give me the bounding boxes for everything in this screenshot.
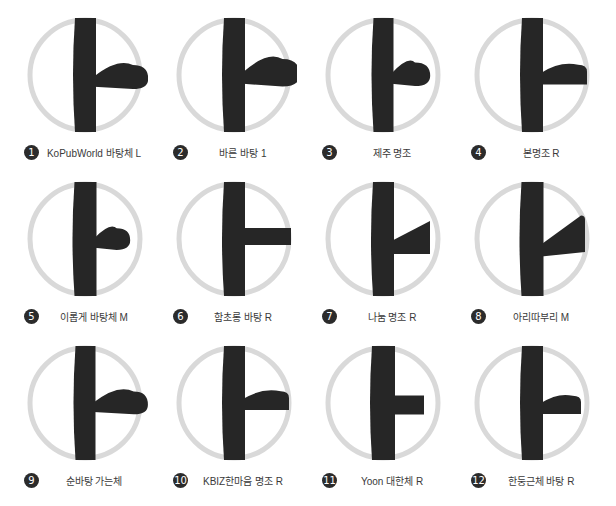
glyph-artwork — [171, 340, 297, 466]
glyph-vertical-stem — [73, 18, 96, 132]
vowel-a-glyph — [519, 182, 585, 296]
glyph-vertical-stem — [519, 182, 543, 296]
specimen-number-badge: 12 — [471, 473, 486, 488]
glyph-disc — [320, 12, 446, 138]
vowel-a-glyph — [73, 346, 147, 460]
vowel-a-glyph — [222, 18, 297, 132]
specimen-caption: 2바른 바탕 1 — [159, 145, 308, 160]
glyph-horizontal-branch — [541, 395, 581, 414]
glyph-disc — [171, 340, 297, 466]
specimen-cell: 9순바탕 가는체 — [10, 336, 159, 500]
glyph-vertical-stem — [72, 182, 96, 296]
specimen-number-badge: 9 — [24, 473, 39, 488]
glyph-disc — [469, 340, 595, 466]
specimen-number-badge: 1 — [24, 145, 39, 160]
specimen-caption: 10KBIZ한마음 명조 R — [159, 473, 308, 488]
specimen-cell: 4본명조 R — [457, 8, 606, 172]
specimen-caption: 3제주 명조 — [308, 145, 457, 160]
glyph-disc — [22, 176, 148, 302]
specimen-caption: 7나눔 명조 R — [308, 309, 457, 324]
specimen-number-badge: 7 — [322, 309, 337, 324]
specimen-font-name: 이롭게 바탕체 M — [39, 309, 159, 324]
vowel-a-glyph — [222, 346, 289, 460]
glyph-artwork — [320, 12, 446, 138]
glyph-disc — [171, 12, 297, 138]
specimen-number-badge: 8 — [471, 309, 486, 324]
specimen-font-name: KoPubWorld 바탕체 L — [39, 145, 159, 160]
glyph-artwork — [469, 12, 595, 138]
specimen-number-badge: 6 — [173, 309, 188, 324]
specimen-cell: 8아리따부리 M — [457, 172, 606, 336]
specimen-caption: 1KoPubWorld 바탕체 L — [10, 145, 159, 160]
specimen-caption: 4본명조 R — [457, 145, 606, 160]
specimen-font-name: 제주 명조 — [337, 145, 457, 160]
glyph-vertical-stem — [520, 18, 543, 132]
glyph-disc — [22, 340, 148, 466]
glyph-artwork — [469, 176, 595, 302]
glyph-horizontal-branch — [392, 221, 430, 254]
glyph-vertical-stem — [222, 346, 245, 460]
glyph-disc — [469, 12, 595, 138]
glyph-horizontal-branch — [94, 63, 148, 89]
specimen-cell: 10KBIZ한마음 명조 R — [159, 336, 308, 500]
glyph-horizontal-branch — [391, 61, 430, 87]
glyph-vertical-stem — [370, 346, 395, 460]
glyph-horizontal-branch — [243, 228, 291, 245]
specimen-font-name: 함초롱 바탕 R — [188, 309, 308, 324]
specimen-cell: 3제주 명조 — [308, 8, 457, 172]
glyph-disc — [320, 340, 446, 466]
glyph-horizontal-branch — [94, 226, 130, 250]
specimen-cell: 2바른 바탕 1 — [159, 8, 308, 172]
specimen-caption: 11Yoon 대한체 R — [308, 473, 457, 488]
glyph-vertical-stem — [73, 346, 95, 460]
specimen-caption: 5이롭게 바탕체 M — [10, 309, 159, 324]
specimen-font-name: 순바탕 가는체 — [39, 473, 159, 488]
specimen-font-name: Yoon 대한체 R — [337, 473, 457, 488]
glyph-horizontal-branch — [541, 215, 585, 256]
glyph-artwork — [320, 176, 446, 302]
glyph-artwork — [22, 12, 148, 138]
glyph-vertical-stem — [520, 346, 543, 460]
glyph-disc — [171, 176, 297, 302]
specimen-grid: 1KoPubWorld 바탕체 L2바른 바탕 13제주 명조4본명조 R5이롭… — [0, 0, 616, 506]
vowel-a-glyph — [520, 18, 587, 132]
vowel-a-glyph — [73, 18, 148, 132]
glyph-artwork — [320, 340, 446, 466]
glyph-vertical-stem — [371, 18, 393, 132]
specimen-cell: 7나눔 명조 R — [308, 172, 457, 336]
specimen-number-badge: 11 — [322, 473, 337, 488]
specimen-number-badge: 5 — [24, 309, 39, 324]
specimen-font-name: 바른 바탕 1 — [188, 145, 308, 160]
specimen-font-name: KBIZ한마음 명조 R — [188, 473, 308, 488]
specimen-caption: 6함초롱 바탕 R — [159, 309, 308, 324]
specimen-number-badge: 2 — [173, 145, 188, 160]
glyph-horizontal-branch — [243, 56, 297, 86]
specimen-font-name: 본명조 R — [486, 145, 606, 160]
specimen-number-badge: 4 — [471, 145, 486, 160]
specimen-caption: 9순바탕 가는체 — [10, 473, 159, 488]
specimen-font-name: 나눔 명조 R — [337, 309, 457, 324]
specimen-cell: 5이롭게 바탕체 M — [10, 172, 159, 336]
specimen-number-badge: 3 — [322, 145, 337, 160]
glyph-vertical-stem — [371, 182, 394, 296]
glyph-artwork — [171, 12, 297, 138]
vowel-a-glyph — [222, 182, 291, 296]
glyph-artwork — [22, 176, 148, 302]
glyph-artwork — [171, 176, 297, 302]
specimen-cell: 11Yoon 대한체 R — [308, 336, 457, 500]
glyph-horizontal-branch — [541, 64, 587, 85]
specimen-cell: 12한둥근체 바탕 R — [457, 336, 606, 500]
glyph-artwork — [22, 340, 148, 466]
glyph-vertical-stem — [222, 182, 245, 296]
specimen-caption: 8아리따부리 M — [457, 309, 606, 324]
glyph-disc — [469, 176, 595, 302]
specimen-cell: 6함초롱 바탕 R — [159, 172, 308, 336]
glyph-vertical-stem — [222, 18, 245, 132]
glyph-horizontal-branch — [393, 396, 424, 415]
glyph-disc — [22, 12, 148, 138]
vowel-a-glyph — [370, 346, 424, 460]
glyph-horizontal-branch — [93, 389, 147, 414]
glyph-artwork — [469, 340, 595, 466]
specimen-caption: 12한둥근체 바탕 R — [457, 473, 606, 488]
specimen-font-name: 한둥근체 바탕 R — [486, 473, 606, 488]
